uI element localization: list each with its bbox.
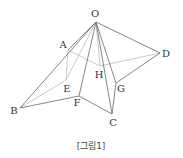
edge-OC: [96, 22, 112, 114]
label-E: E: [63, 83, 70, 94]
edge-GC: [112, 83, 116, 114]
vertex-labels: OABCDEFGH: [10, 8, 170, 128]
hidden-edges: [20, 22, 160, 108]
visible-edges: [20, 22, 160, 114]
label-B: B: [10, 105, 17, 116]
label-C: C: [109, 117, 117, 128]
figure-caption: [그림1]: [77, 140, 106, 151]
label-O: O: [91, 8, 99, 19]
label-H: H: [95, 69, 104, 80]
edge-OF: [79, 22, 96, 96]
label-G: G: [117, 83, 125, 94]
label-D: D: [162, 48, 170, 59]
edge-OD: [96, 22, 160, 53]
label-A: A: [58, 39, 67, 50]
edge-AH: [68, 50, 100, 66]
edge-BE: [20, 80, 66, 108]
label-F: F: [74, 97, 81, 108]
edge-OB: [20, 22, 96, 108]
edge-FC: [79, 96, 112, 114]
pyramid-diagram: OABCDEFGH [그림1]: [0, 0, 183, 158]
